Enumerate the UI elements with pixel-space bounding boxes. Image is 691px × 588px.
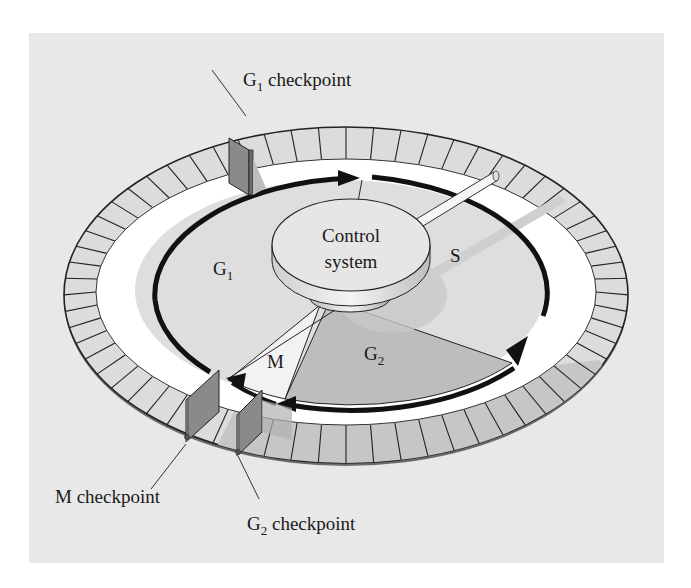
g1-checkpoint-label: G1 checkpoint [243, 69, 352, 94]
cell-cycle-diagram: Control system G1 S G2 M G1 checkpoint M… [0, 0, 691, 588]
g2-checkpoint-label: G2 checkpoint [247, 513, 356, 538]
ring-tile-divider [63, 278, 97, 279]
ring-tile-divider [595, 278, 629, 279]
phase-label-m: M [267, 351, 284, 372]
control-system-label-line1: Control [322, 225, 380, 246]
g1-checkpoint-leader [212, 70, 246, 116]
m-checkpoint-leader [151, 444, 186, 489]
control-system-label-line2: system [325, 251, 378, 272]
g2-checkpoint-leader [238, 456, 259, 499]
m-checkpoint-label: M checkpoint [55, 486, 161, 507]
phase-label-s: S [450, 245, 461, 266]
